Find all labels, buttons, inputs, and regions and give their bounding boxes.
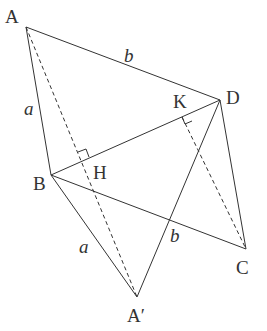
length-label-AB: a (24, 98, 34, 119)
label-A: A (5, 6, 19, 27)
label-A-prime: A′ (127, 305, 145, 326)
label-K: K (173, 91, 187, 112)
segment-BA-prime (51, 175, 137, 297)
label-B: B (33, 173, 46, 194)
label-D: D (226, 87, 240, 108)
segment-BD (51, 100, 220, 175)
label-C: C (236, 257, 249, 278)
segment-AD (26, 27, 220, 100)
segment-DA-prime (137, 100, 220, 297)
right-angle-mark-K (182, 117, 192, 124)
dashed-K-to-C (182, 117, 246, 249)
label-H: H (93, 162, 107, 183)
length-label-AD: b (124, 45, 134, 66)
length-label-A-prime-D: b (170, 225, 180, 246)
length-label-A-prime-B: a (79, 236, 89, 257)
segment-DC (220, 100, 246, 249)
right-angle-mark-H (78, 149, 89, 157)
geometry-diagram: A D K B H C A′ b a a b (0, 0, 267, 331)
